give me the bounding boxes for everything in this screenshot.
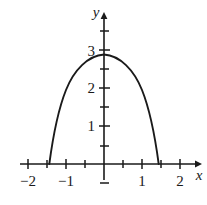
- x-axis-label-2: 2: [176, 173, 184, 189]
- y-axis-label-3: 3: [88, 43, 96, 59]
- y-axis-label-2: 2: [88, 80, 96, 96]
- x-axis-label-neg2: −2: [20, 173, 36, 189]
- x-axis-label-neg1: −1: [58, 173, 74, 189]
- x-axis-name: x: [195, 167, 203, 183]
- y-axis-arrow-icon: [101, 12, 108, 19]
- graph-figure: −2 −1 1 2 1 2 3 y x: [0, 0, 207, 205]
- coordinate-plot: −2 −1 1 2 1 2 3 y x: [0, 0, 207, 205]
- y-axis-name: y: [91, 4, 100, 20]
- x-axis-label-1: 1: [138, 173, 146, 189]
- y-axis-label-1: 1: [88, 118, 96, 134]
